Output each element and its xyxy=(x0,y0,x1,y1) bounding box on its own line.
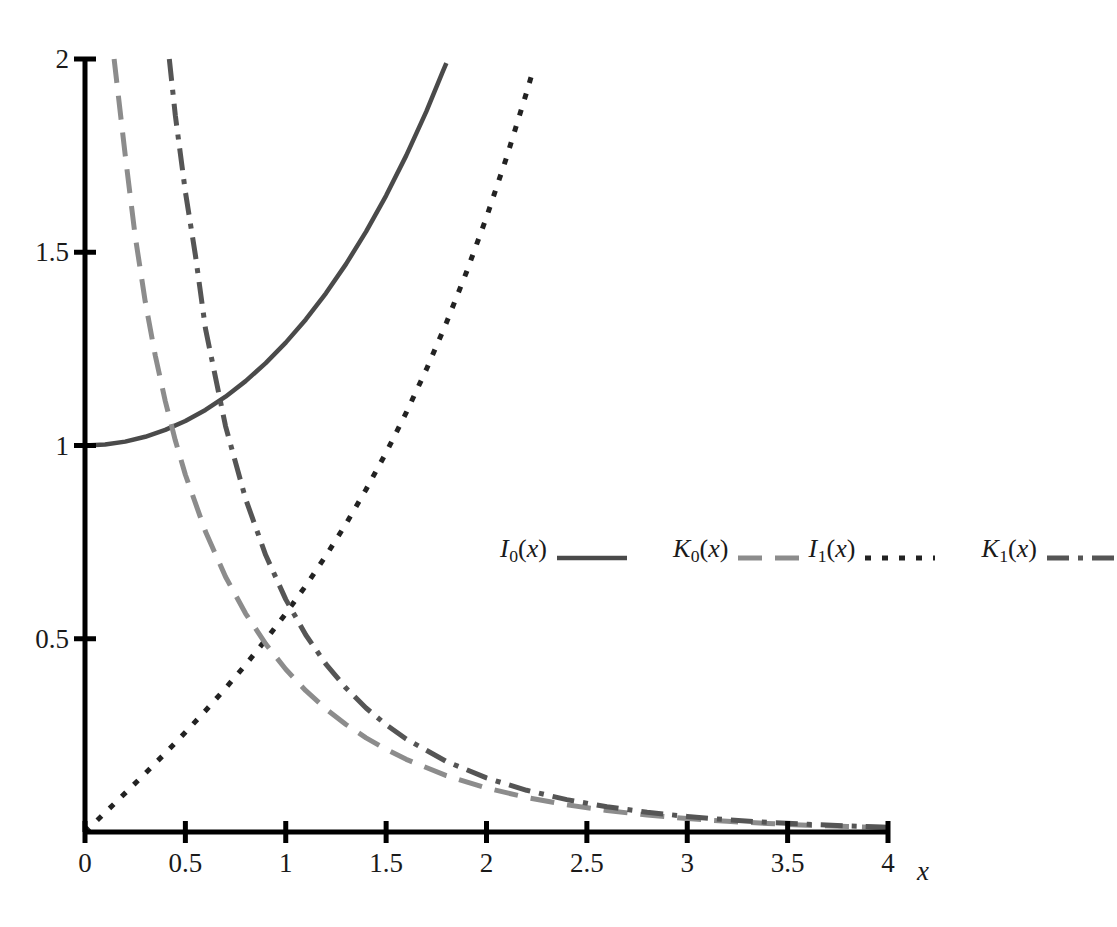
legend-label: K0(x) xyxy=(673,536,729,566)
x-tick-label: 2.5 xyxy=(570,850,604,877)
x-tick-label: 3 xyxy=(681,850,695,877)
legend-item-i1x[interactable]: I1(x) xyxy=(808,536,981,566)
y-tick-label: 0.5 xyxy=(35,625,69,652)
legend-label: K1(x) xyxy=(981,536,1037,566)
y-tick-label: 1.5 xyxy=(35,239,69,266)
legend-item-k1x[interactable]: K1(x) xyxy=(981,536,1117,566)
x-tick-label: 2 xyxy=(480,850,494,877)
axes-group xyxy=(74,59,888,843)
x-tick-label: 1.5 xyxy=(369,850,403,877)
curve-i1x xyxy=(85,71,533,832)
legend-label: I0(x) xyxy=(500,536,547,566)
curve-k1x xyxy=(169,59,888,827)
y-tick-label: 1 xyxy=(56,432,70,459)
x-tick-label: 0 xyxy=(78,850,92,877)
legend-item-k0x[interactable]: K0(x) xyxy=(673,536,809,566)
legend: I0(x)K0(x)I1(x)K1(x) xyxy=(500,536,1117,582)
x-tick-label: 0.5 xyxy=(169,850,203,877)
legend-label: I1(x) xyxy=(808,536,855,566)
y-tick-label: 2 xyxy=(56,46,70,73)
curves-group xyxy=(85,59,888,832)
x-tick-label: 1 xyxy=(279,850,293,877)
legend-swatch-dotted xyxy=(865,548,935,553)
legend-swatch-long-dash xyxy=(738,548,808,553)
x-tick-label: 4 xyxy=(881,850,895,877)
legend-swatch-solid xyxy=(557,548,627,553)
x-axis-label: x xyxy=(917,856,929,887)
x-tick-label: 3.5 xyxy=(771,850,805,877)
legend-swatch-dash-dot xyxy=(1047,548,1117,553)
curve-k0x xyxy=(114,59,888,828)
legend-item-i0x[interactable]: I0(x) xyxy=(500,536,673,566)
